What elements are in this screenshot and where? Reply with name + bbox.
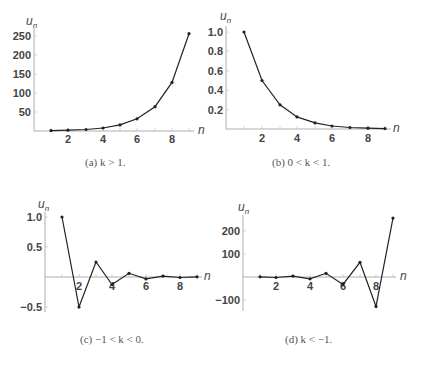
data-line (244, 32, 385, 129)
data-markers (242, 30, 386, 130)
x-tick-labels: 2 4 6 8 (65, 133, 175, 145)
data-markers (60, 215, 198, 308)
caption: (c) −1 < k < 0. (80, 333, 144, 346)
svg-text:6: 6 (134, 133, 140, 145)
x-tick-labels: 2 4 6 8 (76, 280, 183, 292)
svg-text:4: 4 (294, 132, 301, 144)
svg-text:150: 150 (13, 68, 31, 80)
y-minor-ticks (34, 36, 37, 112)
svg-text:2: 2 (65, 133, 71, 145)
x-tick-labels: 2 4 6 8 (273, 280, 379, 292)
svg-text:8: 8 (169, 133, 175, 145)
figure: un n 250 200 150 100 50 2 4 6 8 (a) k > … (0, 0, 425, 366)
data-markers (49, 32, 190, 132)
y-axis-label: un (238, 200, 250, 216)
svg-text:0.6: 0.6 (208, 65, 223, 77)
svg-text:100: 100 (13, 87, 31, 99)
svg-text:250: 250 (13, 30, 31, 42)
svg-text:8: 8 (177, 280, 183, 292)
svg-text:0.4: 0.4 (208, 84, 224, 96)
y-minor-ticks (45, 217, 48, 307)
svg-text:2: 2 (76, 280, 82, 292)
svg-text:0.8: 0.8 (208, 45, 223, 57)
svg-text:200: 200 (13, 49, 31, 61)
y-tick-labels: 200 100 −100 (215, 225, 240, 306)
svg-text:6: 6 (143, 280, 149, 292)
data-markers (258, 217, 394, 309)
svg-text:2: 2 (259, 132, 265, 144)
data-line (51, 34, 189, 131)
caption: (b) 0 < k < 1. (272, 156, 330, 169)
y-tick-labels: 250 200 150 100 50 (13, 30, 31, 118)
caption: (d) k < −1. (285, 333, 332, 346)
svg-text:0.2: 0.2 (208, 104, 223, 116)
svg-text:1.0: 1.0 (208, 26, 223, 38)
x-axis-label: n (400, 269, 407, 283)
panel-d: un n 200 100 −100 2 4 6 8 (d) k < −1. (215, 200, 407, 346)
caption: (a) k > 1. (85, 156, 126, 169)
y-axis-label: un (220, 9, 232, 25)
svg-text:0.5: 0.5 (27, 241, 42, 253)
y-minor-ticks (226, 32, 229, 110)
svg-text:6: 6 (329, 132, 335, 144)
y-tick-labels: 1.0 0.8 0.6 0.4 0.2 (208, 26, 224, 116)
svg-text:200: 200 (222, 225, 240, 237)
x-axis-label: n (198, 123, 205, 137)
panel-a: un n 250 200 150 100 50 2 4 6 8 (a) k > … (13, 14, 205, 169)
svg-text:−100: −100 (215, 294, 240, 306)
panel-c: un n 1.0 0.5 −0.5 2 4 6 8 (c) −1 < k < 0… (20, 197, 211, 346)
svg-text:8: 8 (373, 280, 379, 292)
x-axis-label: n (204, 269, 211, 283)
svg-text:−0.5: −0.5 (20, 301, 42, 313)
svg-text:1.0: 1.0 (27, 211, 42, 223)
panel-b: un n 1.0 0.8 0.6 0.4 0.2 2 4 6 8 (b) 0 <… (208, 9, 400, 169)
y-minor-ticks (243, 231, 246, 300)
x-axis-label: n (393, 121, 400, 135)
svg-text:2: 2 (273, 280, 279, 292)
svg-text:100: 100 (222, 248, 240, 260)
svg-text:50: 50 (19, 106, 31, 118)
x-tick-labels: 2 4 6 8 (259, 132, 371, 144)
y-tick-labels: 1.0 0.5 −0.5 (20, 211, 42, 313)
y-axis-label: un (26, 14, 38, 30)
svg-text:4: 4 (307, 280, 314, 292)
svg-text:4: 4 (100, 133, 107, 145)
data-line (260, 218, 393, 306)
svg-text:8: 8 (365, 132, 371, 144)
data-line (62, 217, 197, 307)
